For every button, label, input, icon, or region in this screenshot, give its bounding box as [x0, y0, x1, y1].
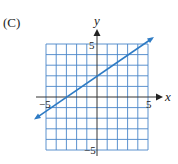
line-arrow-lower-icon	[34, 114, 41, 120]
y-max-tick-label: 5	[89, 39, 95, 51]
y-axis-arrow-icon	[94, 29, 101, 36]
y-axis-label: y	[94, 13, 100, 29]
x-axis-arrow-icon	[156, 94, 163, 101]
x-min-tick-label: −5	[39, 98, 51, 110]
x-axis-label: x	[165, 89, 171, 105]
x-max-tick-label: 5	[146, 98, 152, 110]
axes	[36, 36, 157, 156]
y-min-tick-label: −5	[84, 144, 96, 156]
chart-plot	[0, 0, 178, 164]
